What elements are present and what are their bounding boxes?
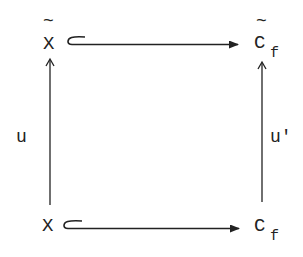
top-right-node: C (254, 34, 265, 53)
top-inclusion-arrow (68, 37, 238, 45)
commutative-diagram: ~ X ~ C f X C f u u' (0, 0, 303, 257)
bottom-right-subscript: f (270, 229, 279, 244)
left-vertical-arrow (46, 59, 54, 205)
top-right-subscript: f (270, 46, 279, 61)
right-vertical-arrow (258, 62, 266, 202)
bottom-left-node: X (42, 217, 53, 236)
bottom-right-node: C (254, 217, 265, 236)
top-right-tilde: ~ (256, 12, 267, 30)
right-edge-label: u' (270, 128, 292, 146)
top-left-node: X (43, 35, 54, 54)
top-left-tilde: ~ (43, 12, 54, 30)
left-edge-label: u (16, 128, 27, 146)
bottom-inclusion-arrow (64, 221, 239, 229)
